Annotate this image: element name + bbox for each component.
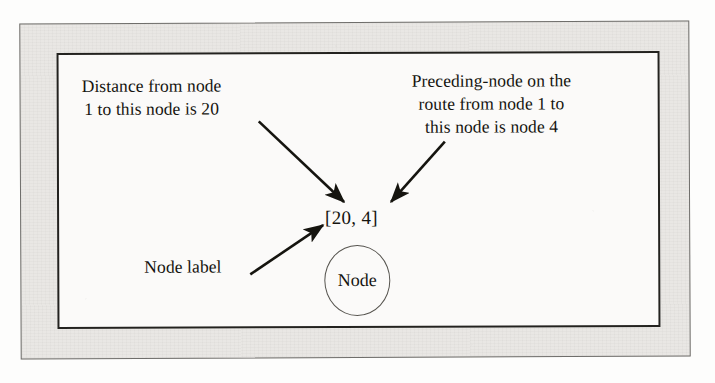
preceding-node-annotation-line-1: Preceding-node on the — [412, 69, 572, 93]
distance-annotation: Distance from node 1 to this node is 20 — [82, 74, 222, 120]
arrow-distance-to-label — [259, 121, 344, 202]
preceding-node-annotation: Preceding-node on the route from node 1 … — [412, 69, 572, 139]
arrow-preceding-to-label — [391, 142, 445, 202]
preceding-node-annotation-line-3: this node is node 4 — [412, 115, 572, 139]
node-ellipse-shape: Node — [324, 245, 390, 316]
arrow-nodelabel-to-label — [250, 225, 323, 274]
figure-page: Distance from node 1 to this node is 20 … — [0, 0, 715, 383]
node-ellipse-label: Node — [325, 246, 389, 315]
distance-annotation-line-1: Distance from node — [82, 74, 222, 97]
figure-content-area: Distance from node 1 to this node is 20 … — [57, 51, 661, 329]
preceding-node-annotation-line-2: route from node 1 to — [412, 92, 572, 116]
node-label-annotation: Node label — [144, 255, 221, 278]
node-label-value: [20, 4] — [325, 207, 378, 229]
distance-annotation-line-2: 1 to this node is 20 — [82, 97, 222, 120]
node-label-annotation-line-1: Node label — [144, 255, 221, 278]
